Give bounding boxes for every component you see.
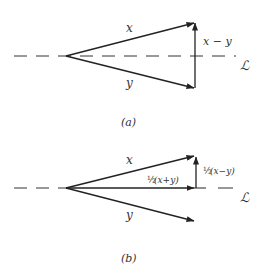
label-half-sum: (x+y) [154,175,179,185]
figure-a: x y x − y ℒ (a) [14,21,250,129]
label-L: ℒ [240,58,250,73]
figure-b: x y ½ (x+y) ½ (x−y) ℒ (b) [14,153,250,265]
label-x-minus-y: x − y [203,35,232,48]
vector-projection-diagram: x y x − y ℒ (a) x y ½ (x+y) ½ (x−y) ℒ (b… [0,0,259,276]
label-y: y [125,208,133,222]
label-y: y [125,76,133,90]
caption-a: (a) [121,116,136,129]
label-x: x [126,153,133,167]
caption-b: (b) [121,252,137,265]
label-L: ℒ [240,190,250,205]
label-x: x [126,21,133,35]
label-half-diff: (x−y) [210,166,235,176]
